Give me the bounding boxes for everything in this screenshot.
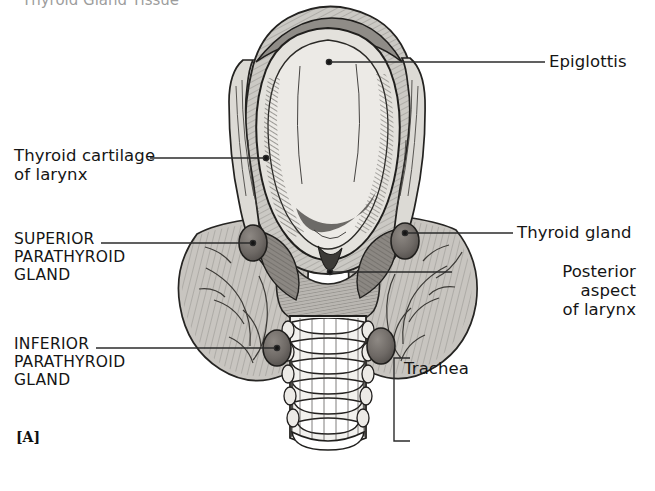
inferior-parathyroid-gland-right xyxy=(367,328,395,364)
label-thyroid-cartilage-of-larynx: Thyroid cartilage of larynx xyxy=(14,146,155,184)
trachea xyxy=(282,316,374,450)
label-thyroid-gland: Thyroid gland xyxy=(517,223,632,242)
label-posterior-aspect-of-larynx: Posterior aspect of larynx xyxy=(456,262,636,319)
label-trachea: Trachea xyxy=(404,359,469,378)
panel-letter: [A] xyxy=(16,429,40,445)
label-inferior-parathyroid-gland: INFERIOR PARATHYROID GLAND xyxy=(14,336,125,390)
superior-parathyroid-gland-left xyxy=(239,225,267,261)
figure-root: Thyroid Gland Tissue xyxy=(0,0,655,491)
superior-parathyroid-gland-right xyxy=(391,223,419,259)
label-epiglottis: Epiglottis xyxy=(549,52,627,71)
inferior-parathyroid-gland-left xyxy=(263,330,291,366)
label-superior-parathyroid-gland: SUPERIOR PARATHYROID GLAND xyxy=(14,231,125,285)
